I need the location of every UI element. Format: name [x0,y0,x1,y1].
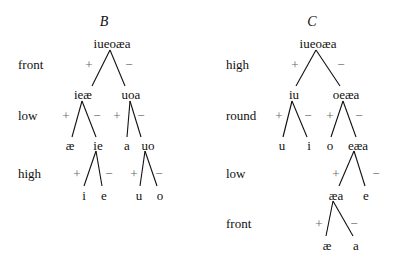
tree-c-leaf: u [279,139,286,152]
tree-b-feature-front: front [18,58,43,71]
tree-b-feature-low: low [18,109,38,122]
tree-b-node: uo [142,139,155,152]
tree-c-leaf: i [307,139,311,152]
plus-sign: + [332,167,339,180]
tree-b-feature-high: high [18,167,41,180]
tree-c-leaf: æ [323,239,332,252]
minus-sign: − [355,109,362,122]
plus-sign: + [315,217,322,230]
minus-sign: − [337,58,344,71]
tree-b-node: ie [93,139,102,152]
tree-b-leaf: e [101,189,107,202]
plus-sign: + [85,58,92,71]
tree-b-leaf: o [157,189,164,202]
tree-b-title: B [100,15,109,29]
plus-sign: + [130,167,137,180]
minus-sign: − [350,217,357,230]
tree-b-root: iueoæa [94,37,131,50]
tree-c-feature-low: low [226,167,246,180]
plus-sign: + [62,109,69,122]
plus-sign: + [113,109,120,122]
plus-sign: + [291,58,298,71]
tree-b-node: ieæ [74,88,92,101]
tree-c-root: iueoæa [300,37,337,50]
minus-sign: − [372,167,379,180]
tree-b-leaf: u [136,189,143,202]
tree-b-leaf: a [124,139,130,152]
tree-b-leaf: i [82,189,86,202]
tree-c-node: æa [329,189,343,202]
tree-c-leaf: a [353,239,359,252]
tree-c-node: iu [289,88,299,101]
tree-c-feature-round: round [226,109,256,122]
tree-c-node: eæa [348,139,368,152]
tree-c-feature-front: front [226,217,251,230]
tree-c-leaf: o [327,139,334,152]
tree-b-leaf: æ [66,139,75,152]
minus-sign: − [137,109,144,122]
tree-c-leaf: e [363,189,369,202]
minus-sign: − [125,58,132,71]
tree-c-feature-high: high [226,58,249,71]
plus-sign: + [73,167,80,180]
tree-c-node: oeæa [333,88,360,101]
plus-sign: + [275,109,282,122]
minus-sign: − [105,167,112,180]
tree-b-node: uoa [122,88,141,101]
plus-sign: + [326,109,333,122]
minus-sign: − [155,167,162,180]
minus-sign: − [304,109,311,122]
minus-sign: − [93,109,100,122]
tree-c-title: C [307,15,316,29]
